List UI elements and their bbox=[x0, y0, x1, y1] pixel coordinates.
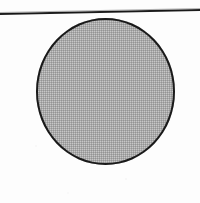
horizontal-rule-line bbox=[0, 9, 200, 16]
shaded-circle bbox=[36, 18, 175, 165]
figure-canvas bbox=[0, 0, 200, 203]
